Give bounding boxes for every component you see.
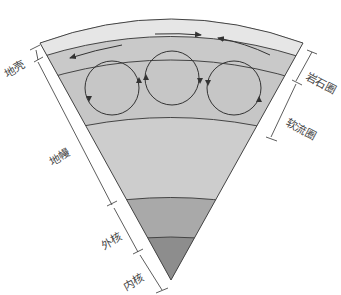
- earth-section-diagram: [0, 0, 341, 295]
- inner-core-layer: [0, 237, 341, 295]
